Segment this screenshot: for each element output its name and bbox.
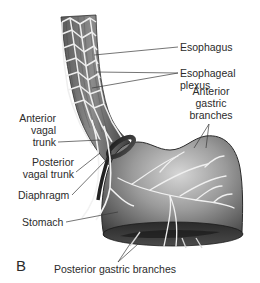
label-anterior-gastric-branches-line3: branches — [186, 109, 236, 121]
label-esophageal-plexus-line1: Esophageal — [180, 67, 235, 79]
label-anterior-vagal-trunk: Anterior vagal trunk — [6, 112, 56, 148]
label-diaphragm: Diaphragm — [18, 189, 69, 201]
label-posterior-vagal-trunk-line1: Posterior — [4, 156, 74, 168]
label-anterior-gastric-branches-line2: gastric — [186, 97, 236, 109]
label-anterior-vagal-trunk-line2: vagal — [6, 124, 56, 136]
vagus-nerve-anatomy-figure: Esophagus Esophageal plexus Anterior gas… — [0, 0, 260, 283]
label-posterior-gastric-branches: Posterior gastric branches — [54, 263, 176, 275]
label-posterior-vagal-trunk: Posterior vagal trunk — [4, 156, 74, 180]
label-anterior-vagal-trunk-line3: trunk — [6, 136, 56, 148]
label-esophagus: Esophagus — [180, 41, 233, 53]
panel-letter: B — [16, 257, 26, 274]
label-stomach: Stomach — [22, 216, 63, 228]
label-anterior-vagal-trunk-line1: Anterior — [6, 112, 56, 124]
label-posterior-vagal-trunk-line2: vagal trunk — [4, 168, 74, 180]
label-anterior-gastric-branches-line1: Anterior — [186, 85, 236, 97]
label-anterior-gastric-branches: Anterior gastric branches — [186, 85, 236, 121]
